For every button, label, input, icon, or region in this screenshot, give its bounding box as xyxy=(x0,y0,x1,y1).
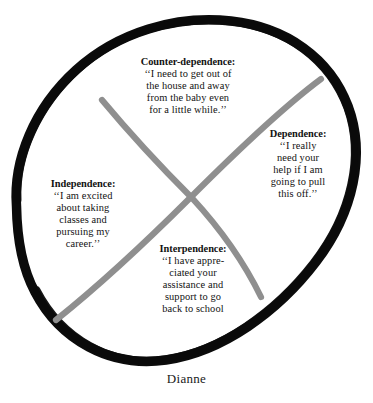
quadrant-independence-line-2: about taking xyxy=(33,202,133,214)
quadrant-counter-dependence-line-2: the house and away xyxy=(126,80,250,92)
quadrant-interpendence-line-2: ciated your xyxy=(140,267,246,279)
quadrant-interpendence-line-3: assistance and xyxy=(140,279,246,291)
quadrant-dependence-heading: Dependence: xyxy=(253,128,343,140)
quadrant-dependence-line-4: going to pull xyxy=(253,176,343,188)
quadrant-interpendence: Interpendence: ‘‘I have appre- ciated yo… xyxy=(140,243,246,315)
quadrant-counter-dependence-line-1: ‘‘I need to get out of xyxy=(126,68,250,80)
quadrant-interpendence-heading: Interpendence: xyxy=(140,243,246,255)
quadrant-independence-heading: Independence: xyxy=(33,178,133,190)
quadrant-dependence-line-3: help if I am xyxy=(253,164,343,176)
quadrant-dependence: Dependence: ‘‘I really need your help if… xyxy=(253,128,343,200)
figure-caption: Dianne xyxy=(0,371,373,387)
quadrant-counter-dependence: Counter-dependence: ‘‘I need to get out … xyxy=(126,56,250,116)
quadrant-dependence-line-1: ‘‘I really xyxy=(253,140,343,152)
quadrant-independence-line-4: pursuing my xyxy=(33,226,133,238)
quadrant-independence-line-5: career.’’ xyxy=(33,238,133,250)
quadrant-counter-dependence-line-3: from the baby even xyxy=(126,92,250,104)
quadrant-dependence-line-2: need your xyxy=(253,152,343,164)
quadrant-independence-line-3: classes and xyxy=(33,214,133,226)
quadrant-independence-line-1: ‘‘I am excited xyxy=(33,190,133,202)
quadrant-interpendence-line-1: ‘‘I have appre- xyxy=(140,255,246,267)
quadrant-counter-dependence-line-4: for a little while.’’ xyxy=(126,104,250,116)
quadrant-counter-dependence-heading: Counter-dependence: xyxy=(126,56,250,68)
dependence-quadrant-figure: Counter-dependence: ‘‘I need to get out … xyxy=(0,0,373,403)
quadrant-independence: Independence: ‘‘I am excited about takin… xyxy=(33,178,133,250)
quadrant-interpendence-line-4: support to go xyxy=(140,291,246,303)
quadrant-dependence-line-5: this off.’’ xyxy=(253,188,343,200)
quadrant-interpendence-line-5: back to school xyxy=(140,303,246,315)
